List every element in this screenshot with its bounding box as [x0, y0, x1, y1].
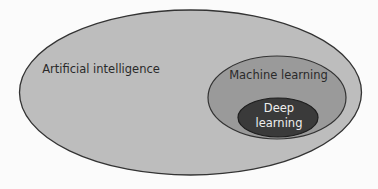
ai-label: Artificial intelligence	[42, 62, 160, 76]
ai-ml-dl-diagram: Artificial intelligence Machine learning…	[0, 0, 378, 189]
diagram-svg: Artificial intelligence Machine learning…	[0, 0, 378, 189]
dl-label-line1: Deep	[264, 101, 294, 115]
ml-label: Machine learning	[229, 68, 328, 82]
dl-label-line2: learning	[256, 116, 303, 130]
